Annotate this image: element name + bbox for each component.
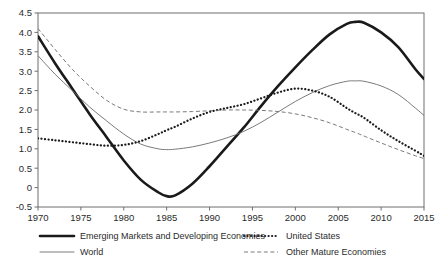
y-tick-label: 4.5	[19, 7, 32, 18]
legend-label-2: United States	[286, 231, 341, 241]
y-tick-label: 3.0	[19, 66, 32, 77]
x-tick-label: 1980	[113, 212, 134, 223]
x-tick-label: 1970	[27, 212, 48, 223]
x-tick-label: 2000	[285, 212, 306, 223]
x-tick-label: 1990	[199, 212, 220, 223]
y-tick-label: -0.5	[16, 201, 32, 212]
y-tick-label: 0.5	[19, 163, 32, 174]
chart-figure: -0.500.51.01.52.02.53.03.54.04.5 1970197…	[0, 0, 443, 268]
chart-svg: -0.500.51.01.52.02.53.03.54.04.5 1970197…	[0, 0, 443, 268]
y-tick-label: 4.0	[19, 27, 32, 38]
legend-label-0: Emerging Markets and Developing Economie…	[80, 231, 266, 241]
legend-label-1: World	[80, 247, 103, 257]
y-tick-label: 2.5	[19, 85, 32, 96]
y-tick-label: 2.0	[19, 104, 32, 115]
x-tick-label: 2015	[413, 212, 434, 223]
legend-label-3: Other Mature Economies	[286, 247, 387, 257]
x-tick-label: 2005	[328, 212, 349, 223]
y-tick-label: 0	[27, 182, 32, 193]
y-axis: -0.500.51.01.52.02.53.03.54.04.5	[16, 7, 38, 212]
y-tick-label: 1.0	[19, 143, 32, 154]
x-tick-label: 1995	[242, 212, 263, 223]
chart-legend: Emerging Markets and Developing Economie…	[40, 231, 387, 257]
x-tick-label: 1985	[156, 212, 177, 223]
y-tick-label: 3.5	[19, 46, 32, 57]
x-tick-label: 2010	[371, 212, 392, 223]
y-tick-label: 1.5	[19, 124, 32, 135]
x-axis: 1970197519801985199019952000200520102015	[27, 207, 434, 223]
x-tick-label: 1975	[70, 212, 91, 223]
